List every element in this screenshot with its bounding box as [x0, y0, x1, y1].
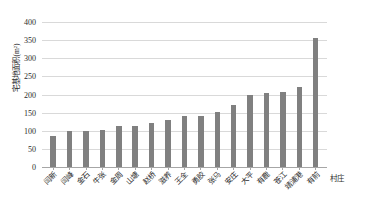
bar[interactable] [297, 87, 303, 167]
x-axis-category-label: 闫新 [43, 171, 58, 186]
x-axis-category-label: 大平 [240, 171, 255, 186]
bar[interactable] [247, 95, 253, 168]
bar-slot [160, 22, 176, 167]
x-axis-title: 村庄 [330, 172, 344, 183]
x-axis-category-label: 赵桥 [142, 171, 157, 186]
x-axis-category-label: 张马 [207, 171, 222, 186]
bar[interactable] [264, 93, 270, 167]
x-label-slot: 金石 [78, 170, 94, 212]
bar[interactable] [83, 131, 89, 167]
bar-slot [176, 22, 192, 167]
x-label-slot: 勇胶 [193, 170, 209, 212]
bar[interactable] [67, 131, 73, 167]
x-axis-category-labels: 闫新闫峰金石牛张金周山塘赵桥滋养王全勇胶张马安庄大平有鹿苍江靖浦港有前 [42, 170, 327, 212]
x-axis-category-label: 有鹿 [257, 171, 272, 186]
x-axis-category-label: 有前 [306, 171, 321, 186]
x-label-slot: 滋养 [160, 170, 176, 212]
bar-slot [94, 22, 110, 167]
y-axis-tick-label: 150 [24, 108, 36, 117]
y-axis-tick-labels: 400350300250200150100500 [0, 22, 40, 167]
bar-slot [242, 22, 258, 167]
x-axis-category-label: 金周 [109, 171, 124, 186]
bar[interactable] [198, 116, 204, 167]
bar[interactable] [50, 136, 56, 167]
x-label-slot: 山塘 [127, 170, 143, 212]
x-label-slot: 张马 [209, 170, 225, 212]
x-axis-category-label: 滋养 [158, 171, 173, 186]
x-label-slot: 靖浦港 [291, 170, 307, 212]
bar-slot [111, 22, 127, 167]
bar-slot [275, 22, 291, 167]
bar[interactable] [182, 116, 188, 167]
y-axis-tick-label: 0 [32, 163, 36, 172]
bar-slot [258, 22, 274, 167]
x-label-slot: 王全 [176, 170, 192, 212]
x-axis-category-label: 王全 [175, 171, 190, 186]
bar[interactable] [100, 130, 106, 167]
bar[interactable] [280, 92, 286, 167]
bar-slot [143, 22, 159, 167]
bar-slot [193, 22, 209, 167]
x-label-slot: 有前 [308, 170, 324, 212]
bar[interactable] [231, 105, 237, 167]
x-label-slot: 大平 [242, 170, 258, 212]
y-axis-tick-label: 350 [24, 36, 36, 45]
x-label-slot: 安庄 [225, 170, 241, 212]
bar[interactable] [165, 120, 171, 167]
bar-series [42, 22, 327, 167]
x-label-slot: 闫新 [45, 170, 61, 212]
x-axis-category-label: 金石 [76, 171, 91, 186]
bar[interactable] [149, 123, 155, 167]
y-axis-tick-label: 300 [24, 54, 36, 63]
x-axis-category-label: 牛张 [93, 171, 108, 186]
x-label-slot: 牛张 [94, 170, 110, 212]
bar-slot [78, 22, 94, 167]
x-label-slot: 有鹿 [258, 170, 274, 212]
y-axis-tick-label: 400 [24, 18, 36, 27]
x-axis-category-label: 闫峰 [60, 171, 75, 186]
x-label-slot: 金周 [111, 170, 127, 212]
bar-slot [308, 22, 324, 167]
bar[interactable] [313, 38, 319, 167]
bar-slot [61, 22, 77, 167]
y-axis-tick-label: 50 [28, 144, 36, 153]
y-axis-tick-label: 200 [24, 90, 36, 99]
bar-slot [45, 22, 61, 167]
bar[interactable] [132, 126, 138, 167]
bar-slot [225, 22, 241, 167]
y-axis-tick-label: 100 [24, 126, 36, 135]
x-label-slot: 赵桥 [143, 170, 159, 212]
y-axis-tick-label: 250 [24, 72, 36, 81]
plot-area [42, 22, 327, 167]
bar-chart: 宅基地面积(m²) 400350300250200150100500 闫新闫峰金… [0, 0, 367, 212]
bar-slot [209, 22, 225, 167]
bar[interactable] [116, 126, 122, 167]
bar[interactable] [215, 112, 221, 167]
x-label-slot: 闫峰 [61, 170, 77, 212]
x-axis-category-label: 安庄 [224, 171, 239, 186]
x-axis-category-label: 勇胶 [191, 171, 206, 186]
bar-slot [127, 22, 143, 167]
x-axis-category-label: 山塘 [125, 171, 140, 186]
bar-slot [291, 22, 307, 167]
